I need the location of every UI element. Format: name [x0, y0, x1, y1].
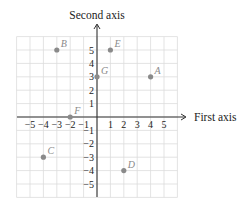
point-b: B [54, 38, 67, 53]
x-tick-label: −5 [25, 119, 36, 130]
y-axis-title: Second axis [69, 9, 125, 21]
point-label: G [101, 65, 108, 76]
y-tick-label: 1 [89, 98, 94, 109]
point-label: F [73, 105, 81, 116]
point-marker [94, 74, 99, 79]
point-a: A [148, 65, 162, 80]
y-tick-label: 3 [89, 71, 94, 82]
x-tick-label: −3 [51, 119, 62, 130]
x-tick-labels: −5−4−3−2−112345 [25, 119, 167, 130]
x-tick-label: −4 [38, 119, 49, 130]
point-label: B [61, 38, 67, 49]
point-marker [54, 47, 59, 52]
point-d: D [121, 159, 136, 174]
x-tick-label: 2 [121, 119, 126, 130]
y-tick-label: −1 [83, 125, 94, 136]
point-label: D [127, 159, 136, 170]
x-tick-label: 3 [135, 119, 140, 130]
y-tick-label: 5 [89, 45, 94, 56]
point-label: C [47, 145, 54, 156]
point-marker [68, 114, 73, 119]
points: ABCDEFG [41, 38, 162, 173]
y-tick-label: −5 [83, 179, 94, 190]
point-e: E [108, 38, 121, 53]
point-marker [148, 74, 153, 79]
point-marker [121, 168, 126, 173]
coordinate-plane: First axis Second axis −5−4−3−2−112345 5… [0, 0, 248, 204]
point-marker [108, 47, 113, 52]
y-tick-label: −4 [83, 165, 94, 176]
x-tick-label: 5 [162, 119, 167, 130]
point-marker [41, 155, 46, 160]
x-axis-title: First axis [194, 111, 237, 123]
x-tick-label: 4 [148, 119, 153, 130]
y-tick-label: 2 [89, 85, 94, 96]
y-tick-label: −3 [83, 152, 94, 163]
x-tick-label: 1 [108, 119, 113, 130]
point-c: C [41, 145, 55, 160]
x-tick-label: −2 [65, 119, 76, 130]
point-label: A [154, 65, 162, 76]
y-tick-label: −2 [83, 138, 94, 149]
point-label: E [113, 38, 120, 49]
y-tick-label: 4 [89, 58, 94, 69]
